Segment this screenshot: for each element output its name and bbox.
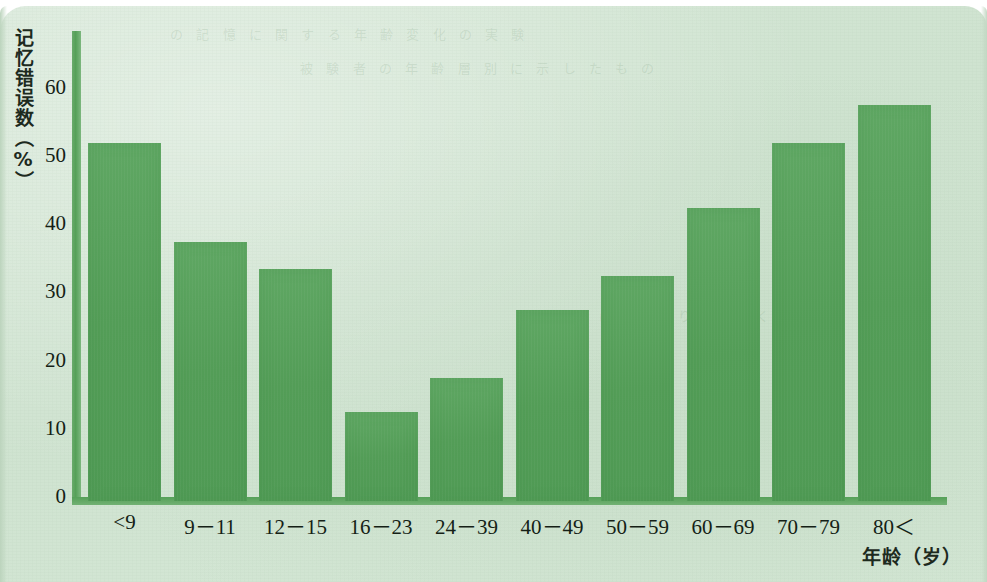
x-tick-label: 40－49	[510, 510, 595, 540]
y-axis-tick-labels: 0102030405060	[30, 0, 66, 582]
bar	[601, 276, 674, 501]
bar	[858, 105, 931, 501]
x-tick-label: 16－23	[339, 510, 424, 540]
x-tick-label: 50－59	[595, 510, 680, 540]
bar-chart-plot-area: 记忆错误数（%） 0102030405060 <99－1112－1516－232…	[0, 0, 987, 582]
x-tick-label: 9－11	[168, 510, 253, 540]
bar	[772, 143, 845, 501]
bar	[259, 269, 332, 501]
y-tick-label: 30	[36, 279, 66, 304]
x-axis-title: 年龄（岁）	[862, 542, 962, 569]
y-tick-label: 0	[36, 484, 66, 509]
y-axis-line	[72, 31, 81, 501]
x-tick-label: 60－69	[681, 510, 766, 540]
bar	[174, 242, 247, 501]
x-tick-label: 24－39	[424, 510, 509, 540]
bar	[430, 378, 503, 501]
y-tick-label: 50	[36, 143, 66, 168]
bar	[345, 412, 418, 501]
x-tick-label: <9	[82, 510, 167, 535]
y-tick-label: 20	[36, 348, 66, 373]
bar	[687, 208, 760, 501]
y-tick-label: 40	[36, 211, 66, 236]
chart-page: の 記 憶 に 関 す る 年 齢 変 化 の 実 験 被 験 者 の 年 齢 …	[0, 0, 987, 582]
y-tick-label: 60	[36, 75, 66, 100]
x-tick-label: 80＜	[852, 510, 937, 540]
x-tick-label: 12－15	[253, 510, 338, 540]
bar	[88, 143, 161, 501]
y-tick-label: 10	[36, 416, 66, 441]
bar	[516, 310, 589, 501]
x-tick-label: 70－79	[766, 510, 851, 540]
